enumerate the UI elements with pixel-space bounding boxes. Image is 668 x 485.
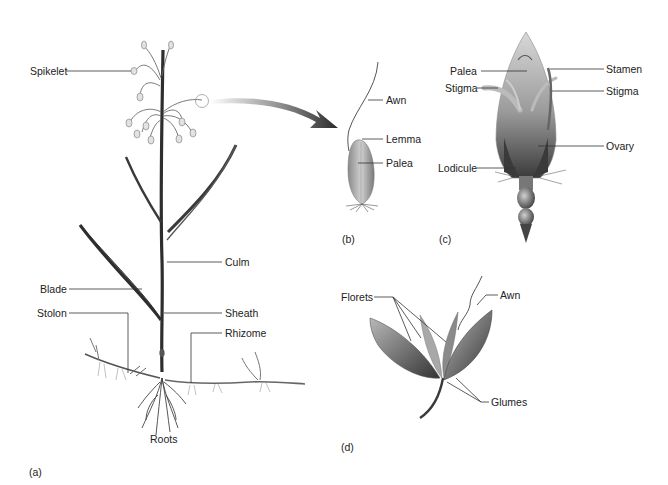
label-stigma-right: Stigma bbox=[606, 85, 639, 97]
zoom-arrow-icon bbox=[210, 98, 338, 128]
label-palea-b: Palea bbox=[386, 157, 413, 169]
floret-illustration bbox=[346, 62, 378, 212]
label-spikelet: Spikelet bbox=[30, 65, 67, 77]
diagram-canvas bbox=[0, 0, 668, 485]
label-glumes: Glumes bbox=[491, 396, 527, 408]
panel-label-d: (d) bbox=[341, 441, 354, 453]
label-awn-b: Awn bbox=[386, 94, 406, 106]
label-lemma: Lemma bbox=[386, 133, 421, 145]
label-blade: Blade bbox=[40, 283, 67, 295]
grass-anatomy-figure: Spikelet Culm Blade Stolon Sheath Rhizom… bbox=[0, 0, 668, 485]
label-florets: Florets bbox=[341, 291, 373, 303]
label-stigma-left: Stigma bbox=[445, 82, 478, 94]
label-culm: Culm bbox=[225, 256, 250, 268]
highlight-circle-icon bbox=[196, 95, 209, 108]
label-awn-d: Awn bbox=[500, 289, 520, 301]
panel-label-c: (c) bbox=[439, 233, 451, 245]
panel-label-a: (a) bbox=[29, 466, 42, 478]
label-stolon: Stolon bbox=[37, 307, 67, 319]
label-sheath: Sheath bbox=[225, 307, 258, 319]
label-roots: Roots bbox=[150, 433, 177, 445]
label-palea-c: Palea bbox=[450, 65, 477, 77]
grass-plant-illustration bbox=[80, 41, 305, 435]
label-rhizome: Rhizome bbox=[225, 327, 266, 339]
panel-label-b: (b) bbox=[342, 233, 355, 245]
label-ovary: Ovary bbox=[606, 140, 634, 152]
label-stamen: Stamen bbox=[606, 63, 642, 75]
label-lodicule: Lodicule bbox=[438, 162, 477, 174]
flower-illustration bbox=[484, 32, 566, 243]
